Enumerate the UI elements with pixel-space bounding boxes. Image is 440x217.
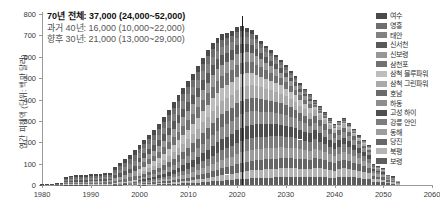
bar-segment bbox=[230, 60, 234, 71]
bar-segment bbox=[225, 137, 229, 148]
annotation-line-total: 70년 전체: 37,000 (24,000~52,000) bbox=[47, 11, 185, 23]
legend-item[interactable]: 당진 bbox=[376, 137, 428, 147]
bar-segment bbox=[108, 177, 112, 179]
bar-segment bbox=[138, 149, 142, 153]
bar-segment bbox=[264, 159, 268, 169]
bar-segment bbox=[259, 99, 263, 111]
bar-segment bbox=[313, 158, 317, 167]
bar-column bbox=[167, 110, 171, 185]
bar-segment bbox=[328, 129, 332, 134]
bar-segment bbox=[284, 82, 288, 88]
bar-segment bbox=[279, 85, 283, 93]
bar-segment bbox=[376, 177, 380, 180]
bar-segment bbox=[298, 130, 302, 140]
bar-column bbox=[318, 106, 322, 185]
bar-segment bbox=[294, 76, 298, 78]
legend-item[interactable]: 삼척 그린파워 bbox=[376, 79, 428, 89]
bar-segment bbox=[333, 178, 337, 185]
bar-column bbox=[89, 174, 93, 185]
bar-segment bbox=[323, 115, 327, 116]
bar-segment bbox=[259, 67, 263, 76]
bar-segment bbox=[147, 144, 151, 149]
legend-item[interactable]: 동해 bbox=[376, 127, 428, 137]
bar-segment bbox=[313, 101, 317, 102]
bar-segment bbox=[289, 127, 293, 138]
bar-segment bbox=[147, 183, 151, 184]
legend-item[interactable]: 태안 bbox=[376, 30, 428, 40]
bar-segment bbox=[181, 159, 185, 165]
legend-item[interactable]: 북평 bbox=[376, 147, 428, 157]
legend-item[interactable]: 호남 bbox=[376, 89, 428, 99]
bar-segment bbox=[118, 163, 122, 166]
bar-segment bbox=[162, 179, 166, 181]
bar-column bbox=[133, 150, 137, 185]
bar-segment bbox=[298, 86, 302, 88]
bar-segment bbox=[367, 147, 371, 148]
legend-item[interactable]: 영흥 bbox=[376, 21, 428, 31]
bar-segment bbox=[196, 164, 200, 170]
bar-segment bbox=[337, 122, 341, 123]
legend-label: 하동 bbox=[390, 99, 402, 108]
present-year-divider bbox=[242, 16, 243, 185]
bar-segment bbox=[206, 139, 210, 149]
bar-segment bbox=[333, 125, 337, 126]
bar-segment bbox=[177, 132, 181, 140]
bar-segment bbox=[333, 149, 337, 156]
bar-column bbox=[274, 55, 278, 185]
bar-segment bbox=[294, 138, 298, 148]
legend-item[interactable]: 삼천포 bbox=[376, 59, 428, 69]
bar-segment bbox=[220, 139, 224, 150]
bar-segment bbox=[138, 178, 142, 180]
bar-segment bbox=[196, 179, 200, 182]
bar-segment bbox=[318, 106, 322, 107]
bar-segment bbox=[152, 151, 156, 156]
bar-segment bbox=[342, 119, 346, 120]
bar-segment bbox=[216, 176, 220, 181]
bar-segment bbox=[391, 180, 395, 181]
x-tick-mark bbox=[140, 185, 141, 188]
bar-segment bbox=[79, 183, 83, 184]
legend-item[interactable]: 신보령 bbox=[376, 50, 428, 60]
bar-segment bbox=[167, 172, 171, 176]
legend-item[interactable]: 삼척 블루파워 bbox=[376, 69, 428, 79]
bar-segment bbox=[289, 81, 293, 86]
bar-segment bbox=[181, 175, 185, 179]
bar-segment bbox=[181, 109, 185, 117]
bar-segment bbox=[157, 135, 161, 141]
legend-item[interactable]: 보령 bbox=[376, 156, 428, 166]
legend-item[interactable]: 고성 하이 bbox=[376, 108, 428, 118]
bar-segment bbox=[186, 178, 190, 181]
bar-segment bbox=[225, 73, 229, 85]
bar-segment bbox=[294, 159, 298, 169]
bar-segment bbox=[367, 148, 371, 149]
bar-segment bbox=[386, 178, 390, 179]
bar-column bbox=[108, 173, 112, 185]
bar-segment bbox=[162, 141, 166, 148]
bar-segment bbox=[391, 178, 395, 179]
bar-segment bbox=[264, 169, 268, 178]
bar-segment bbox=[289, 75, 293, 78]
legend-item[interactable]: 강릉 안인 bbox=[376, 118, 428, 128]
bar-segment bbox=[142, 162, 146, 166]
bar-segment bbox=[211, 57, 215, 66]
legend-item[interactable]: 하동 bbox=[376, 98, 428, 108]
bar-segment bbox=[376, 168, 380, 169]
bar-segment bbox=[347, 126, 351, 127]
bar-segment bbox=[308, 151, 312, 160]
legend-label: 여수 bbox=[390, 11, 402, 20]
bar-segment bbox=[152, 161, 156, 166]
bar-segment bbox=[113, 170, 117, 173]
legend-item[interactable]: 여수 bbox=[376, 11, 428, 21]
bar-segment bbox=[216, 162, 220, 170]
bar-segment bbox=[303, 123, 307, 131]
bar-segment bbox=[147, 135, 151, 139]
bar-segment bbox=[245, 126, 249, 139]
bar-segment bbox=[108, 179, 112, 181]
legend-item[interactable]: 신서천 bbox=[376, 40, 428, 50]
bar-segment bbox=[269, 101, 273, 112]
bar-segment bbox=[181, 144, 185, 152]
bar-segment bbox=[255, 137, 259, 149]
bar-segment bbox=[235, 54, 239, 65]
bar-segment bbox=[337, 123, 341, 124]
bar-segment bbox=[269, 90, 273, 101]
